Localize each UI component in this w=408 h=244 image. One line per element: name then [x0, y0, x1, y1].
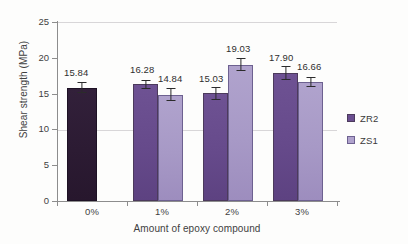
y-axis-title: Shear strength (MPa)	[18, 15, 29, 165]
legend-swatch-zs1-icon	[347, 136, 355, 144]
x-tick-label-3: 3%	[272, 206, 332, 217]
bar-2pct-zs1	[228, 65, 253, 201]
error-bar-0pct-zr2	[67, 82, 97, 93]
value-label-3pct-zs1: 16.66	[297, 61, 321, 72]
x-tick-0	[57, 201, 58, 206]
x-tick-3	[267, 201, 268, 206]
bar-3pct-zs1	[298, 82, 323, 201]
value-label-3pct-zr2: 17.90	[269, 52, 293, 63]
plot-area: 15.84 16.28 14.84 15.03	[57, 22, 337, 201]
error-bar-1pct-zr2	[133, 80, 158, 89]
bar-3pct-zr2	[273, 73, 298, 201]
legend-label-zr2: ZR2	[360, 113, 379, 124]
x-tick-4	[337, 201, 338, 206]
value-label-2pct-zr2: 15.03	[199, 73, 223, 84]
value-label-1pct-zs1: 14.84	[158, 73, 182, 84]
error-bar-3pct-zr2	[273, 66, 298, 80]
legend: ZR2 ZS1	[347, 107, 379, 151]
value-label-1pct-zr2: 16.28	[130, 64, 154, 75]
error-bar-2pct-zr2	[203, 87, 228, 101]
legend-swatch-zr2-icon	[347, 114, 355, 122]
value-label-0pct-zr2: 15.84	[64, 67, 88, 78]
value-label-2pct-zs1: 19.03	[226, 43, 250, 54]
x-tick-1	[127, 201, 128, 206]
error-bar-1pct-zs1	[158, 88, 183, 101]
error-bar-2pct-zs1	[228, 58, 253, 71]
error-bar-3pct-zs1	[298, 77, 323, 87]
bar-chart-figure: 25 20 15 10 5 0 0% 1% 2% 3% 15.84	[0, 0, 408, 244]
legend-item-zs1: ZS1	[347, 129, 379, 151]
legend-item-zr2: ZR2	[347, 107, 379, 129]
x-tick-2	[197, 201, 198, 206]
bar-1pct-zr2	[133, 84, 158, 201]
x-tick-label-2: 2%	[202, 206, 262, 217]
legend-label-zs1: ZS1	[360, 135, 378, 146]
bar-1pct-zs1	[158, 95, 183, 201]
bar-0pct-zr2	[67, 88, 97, 201]
bar-2pct-zr2	[203, 93, 228, 201]
y-tick-label-0: 0	[0, 195, 49, 206]
x-tick-label-1: 1%	[132, 206, 192, 217]
x-axis-title: Amount of epoxy compound	[57, 223, 337, 234]
x-tick-label-0: 0%	[62, 206, 122, 217]
